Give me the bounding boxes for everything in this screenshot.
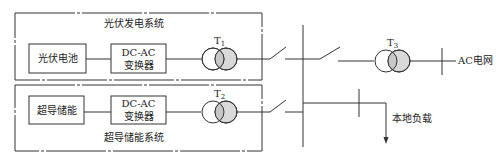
- t3-subscript: 3: [394, 42, 398, 50]
- grid-switch: [320, 47, 340, 59]
- smes-label: 超导储能: [29, 104, 84, 117]
- pv-inverter-line1: DC-AC: [111, 46, 166, 59]
- transformer-t2-label: T2: [214, 89, 225, 101]
- smes-system-title: 超导储能系统: [104, 133, 164, 143]
- ac-grid-label: AC电网: [458, 56, 493, 66]
- pv-cell-label: 光伏电池: [29, 52, 86, 65]
- smes-switch: [270, 100, 286, 112]
- pv-inverter-line2: 变换器: [111, 59, 166, 72]
- pv-inverter-label: DC-AC 变换器: [111, 46, 166, 72]
- diagram-canvas: [0, 0, 504, 165]
- t2-letter: T: [214, 88, 221, 99]
- pv-system-title: 光伏发电系统: [104, 19, 164, 29]
- smes-inverter-label: DC-AC 变换器: [111, 97, 166, 123]
- load-arrow-icon: [384, 137, 389, 144]
- smes-inverter-line1: DC-AC: [111, 97, 166, 110]
- t2-subscript: 2: [221, 93, 225, 101]
- t3-letter: T: [387, 37, 394, 48]
- local-load-label: 本地负载: [392, 114, 432, 124]
- pv-switch: [270, 47, 286, 59]
- transformer-t3-label: T3: [387, 38, 398, 50]
- t1-letter: T: [214, 35, 221, 46]
- smes-inverter-line2: 变换器: [111, 110, 166, 123]
- transformer-t2-icon: [202, 101, 237, 123]
- transformer-t1-label: T1: [214, 36, 225, 48]
- t1-subscript: 1: [221, 40, 225, 48]
- transformer-t3-icon: [375, 50, 410, 72]
- transformer-t1-icon: [202, 48, 237, 70]
